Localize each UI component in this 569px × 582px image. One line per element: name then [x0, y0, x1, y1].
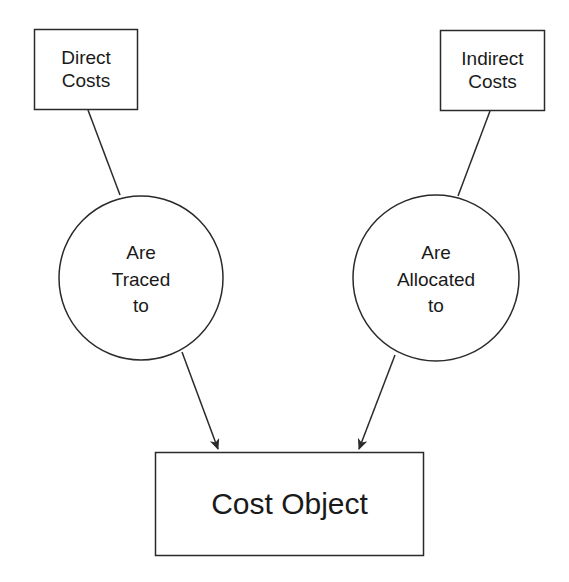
are-allocated-to-label: Are Allocated to [374, 236, 498, 324]
indirect-costs-line-2: Costs [468, 71, 517, 93]
traced-line-1: Are [126, 240, 156, 267]
are-traced-to-label: Are Traced to [79, 236, 203, 324]
edge-indirect-to-allocated [458, 111, 490, 196]
allocated-line-1: Are [421, 240, 451, 267]
arrow-traced-to-cost-object [182, 352, 218, 449]
direct-costs-line-1: Direct [61, 47, 111, 69]
cost-object-label: Cost Object [156, 453, 423, 555]
arrow-allocated-to-cost-object [359, 355, 395, 449]
direct-costs-line-2: Costs [62, 70, 111, 92]
allocated-line-3: to [428, 293, 444, 320]
traced-line-2: Traced [112, 267, 170, 294]
indirect-costs-line-1: Indirect [461, 48, 523, 70]
cost-object-text: Cost Object [211, 486, 368, 521]
traced-line-3: to [133, 293, 149, 320]
edge-direct-to-traced [88, 110, 120, 195]
direct-costs-label: Direct Costs [35, 30, 137, 109]
indirect-costs-label: Indirect Costs [441, 31, 544, 110]
allocated-line-2: Allocated [397, 267, 475, 294]
